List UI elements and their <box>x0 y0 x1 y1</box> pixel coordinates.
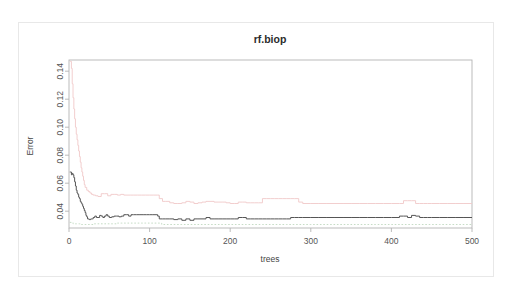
y-tick-label: 0.06 <box>55 175 65 192</box>
series-line-class-error-upper <box>70 61 472 203</box>
series-line-class-error-lower <box>70 222 472 224</box>
chart-title-group: rf.biop <box>254 33 287 45</box>
x-tick-label: 500 <box>465 236 479 246</box>
y-tick-label: 0.08 <box>55 147 65 164</box>
y-tick-label: 0.04 <box>55 203 65 220</box>
y-tick-label: 0.14 <box>55 63 65 80</box>
rf-biop-error-plot: rf.biop 01002003004005000.040.060.080.10… <box>0 0 508 298</box>
axes-group <box>65 60 472 232</box>
y-tick-label: 0.12 <box>55 91 65 108</box>
series-group <box>70 61 472 224</box>
y-axis-title: Error <box>25 136 35 155</box>
plot-frame <box>69 60 472 228</box>
series-line-oob-error <box>70 172 472 220</box>
x-tick-label: 100 <box>143 236 157 246</box>
x-axis-title: trees <box>261 254 280 264</box>
chart-title: rf.biop <box>254 33 287 45</box>
screenshot-canvas: rf.biop 01002003004005000.040.060.080.10… <box>0 0 508 298</box>
x-tick-label: 200 <box>223 236 237 246</box>
x-tick-label: 400 <box>384 236 398 246</box>
x-tick-label: 0 <box>67 236 72 246</box>
y-tick-label: 0.10 <box>55 119 65 136</box>
x-tick-label: 300 <box>304 236 318 246</box>
